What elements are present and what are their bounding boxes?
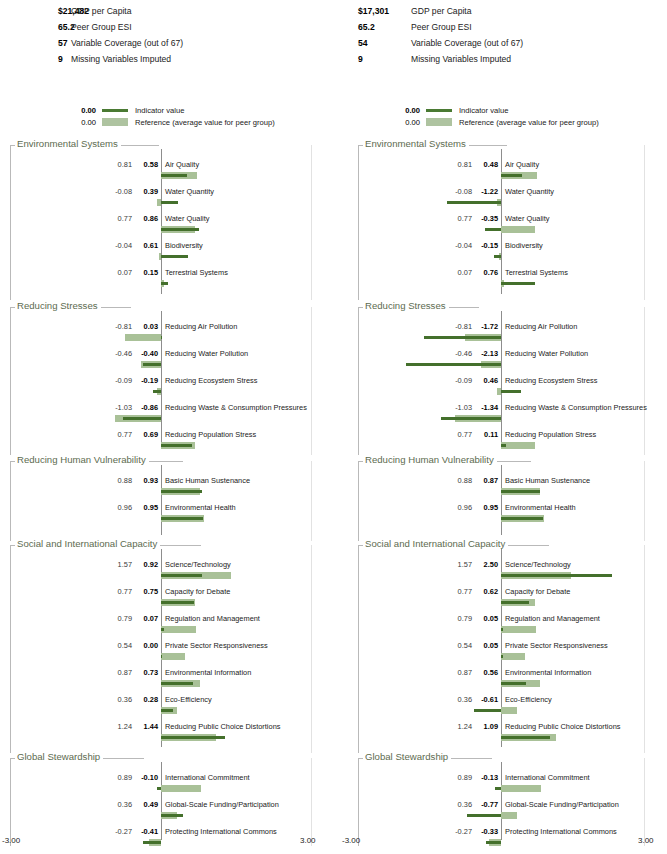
legend-value-reference: 0.00 (0, 118, 96, 127)
indicator-row: -1.03-1.34Reducing Waste & Consumption P… (359, 402, 658, 429)
indicator-name: Environmental Information (505, 667, 591, 678)
row-label-group: 0.070.15Terrestrial Systems (11, 267, 330, 278)
indicator-value: 0.00 (144, 640, 158, 651)
bar-group (11, 571, 330, 583)
indicator-name: Reducing Public Choice Distortions (505, 721, 620, 732)
indicator-bar (501, 736, 550, 739)
indicator-name: Regulation and Management (165, 613, 260, 624)
section-title: Reducing Stresses (363, 300, 449, 311)
esi-country-profile-chart: $21,482GDP per Capita65.2Peer Group ESI5… (0, 0, 667, 854)
reference-bar (125, 334, 161, 341)
indicator-bar (143, 363, 161, 366)
section-environmental-systems: Environmental Systems0.810.48Air Quality… (358, 145, 658, 300)
country-panel-right: $17,301GDP per Capita65.2Peer Group ESI5… (340, 0, 667, 854)
bar-group (359, 279, 658, 291)
indicator-value: 0.11 (484, 429, 498, 440)
row-label-group: 0.540.05Private Sector Responsiveness (359, 640, 658, 651)
bar-group (359, 252, 658, 264)
indicator-value: 0.56 (484, 667, 498, 678)
indicator-bar (501, 282, 535, 285)
indicator-bar (123, 417, 161, 420)
indicator-row: 0.770.62Capacity for Debate (359, 586, 658, 613)
indicator-row: 0.810.48Air Quality (359, 159, 658, 186)
reference-value: 0.81 (118, 159, 132, 170)
indicator-value: 1.44 (144, 721, 158, 732)
row-label-group: 1.570.92Science/Technology (11, 559, 330, 570)
stat-label: GDP per Capita (402, 3, 472, 19)
indicator-row: 0.070.15Terrestrial Systems (11, 267, 330, 294)
bar-group (11, 414, 330, 426)
indicator-bar (494, 255, 501, 258)
indicator-value: 0.05 (484, 640, 498, 651)
indicator-value: -0.40 (141, 348, 158, 359)
reference-value: -1.03 (455, 402, 472, 413)
indicator-row: 0.360.49Global-Scale Funding/Participati… (11, 799, 330, 826)
stat-row: $17,301GDP per Capita (340, 3, 667, 19)
indicator-name: Reducing Waste & Consumption Pressures (505, 402, 647, 413)
row-label-group: -0.810.03Reducing Air Pollution (11, 321, 330, 332)
reference-value: 0.87 (458, 667, 472, 678)
legend-label-reference: Reference (average value for peer group) (135, 118, 275, 127)
bar-group (11, 333, 330, 345)
reference-value: -0.46 (115, 348, 132, 359)
indicator-row: 0.960.95Environmental Health (359, 502, 658, 529)
row-label-group: -0.040.61Biodiversity (11, 240, 330, 251)
country-panel-left: $21,482GDP per Capita65.2Peer Group ESI5… (0, 0, 340, 854)
indicator-name: Global-Scale Funding/Participation (165, 799, 279, 810)
bar-group (359, 198, 658, 210)
indicator-name: Water Quantity (165, 186, 214, 197)
section-social-and-international-capacity: Social and International Capacity1.572.5… (358, 545, 658, 753)
bar-group (11, 811, 330, 823)
stat-row: 65.2Peer Group ESI (340, 19, 667, 35)
reference-bar (501, 785, 541, 792)
indicator-bar (467, 814, 501, 817)
reference-value: 0.96 (458, 502, 472, 513)
legend-label-indicator: Indicator value (135, 106, 184, 115)
row-label-group: 0.880.93Basic Human Sustenance (11, 475, 330, 486)
row-label-group: -0.04-0.15Biodiversity (359, 240, 658, 251)
section-title: Global Stewardship (363, 751, 451, 762)
stat-label: Missing Variables Imputed (402, 51, 511, 67)
indicator-bar (501, 655, 503, 658)
indicator-value: 0.62 (484, 586, 498, 597)
reference-value: 0.36 (118, 694, 132, 705)
stats-block: $21,482GDP per Capita65.2Peer Group ESI5… (0, 3, 340, 67)
row-label-group: 0.960.95Environmental Health (11, 502, 330, 513)
indicator-name: Water Quality (165, 213, 210, 224)
row-label-group: -0.46-2.13Reducing Water Pollution (359, 348, 658, 359)
stat-label: Peer Group ESI (402, 19, 472, 35)
stat-row: 65.2Peer Group ESI (0, 19, 340, 35)
legend-row-reference: 0.00Reference (average value for peer gr… (0, 116, 340, 128)
reference-bar (501, 626, 536, 633)
indicator-value: -0.15 (481, 240, 498, 251)
indicator-bar (501, 601, 529, 604)
bar-group (359, 598, 658, 610)
indicator-value: 0.03 (144, 321, 158, 332)
bar-group (359, 387, 658, 399)
section-title: Reducing Stresses (15, 300, 101, 311)
section-reducing-human-vulnerability: Reducing Human Vulnerability0.880.93Basi… (10, 461, 330, 541)
section-reducing-human-vulnerability: Reducing Human Vulnerability0.880.87Basi… (358, 461, 658, 541)
bar-group (11, 360, 330, 372)
indicator-value: 0.49 (144, 799, 158, 810)
row-label-group: 0.89-0.13International Commitment (359, 772, 658, 783)
indicator-name: Reducing Waste & Consumption Pressures (165, 402, 307, 413)
stat-value: $17,301 (340, 3, 402, 19)
indicator-bar (161, 174, 187, 177)
bar-group (11, 225, 330, 237)
bar-group (359, 225, 658, 237)
stat-value: 65.2 (340, 19, 402, 35)
indicator-name: Private Sector Responsiveness (165, 640, 268, 651)
indicator-bar (501, 682, 526, 685)
indicator-value: -1.34 (481, 402, 498, 413)
indicator-value: -0.13 (481, 772, 498, 783)
indicator-name: Science/Technology (165, 559, 231, 570)
bar-group (11, 487, 330, 499)
legend-swatch-reference-icon (102, 118, 128, 126)
row-label-group: 1.241.09Reducing Public Choice Distortio… (359, 721, 658, 732)
indicator-value: 2.50 (484, 559, 498, 570)
bar-group (359, 625, 658, 637)
indicator-row: 1.241.09Reducing Public Choice Distortio… (359, 721, 658, 748)
stat-row: 9Missing Variables Imputed (0, 51, 340, 67)
row-label-group: 0.070.76Terrestrial Systems (359, 267, 658, 278)
